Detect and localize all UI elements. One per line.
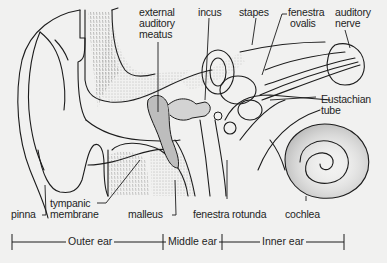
label-line: tube xyxy=(321,105,371,116)
label-malleus: malleus xyxy=(128,209,163,220)
label-cochlea: cochlea xyxy=(285,209,320,220)
label-fenestra-ovalis: fenestra ovalis xyxy=(288,7,324,29)
label-fenestra-rotunda: fenestra rotunda xyxy=(193,209,266,220)
label-auditory-nerve: auditory nerve xyxy=(335,7,371,29)
label-pinna: pinna xyxy=(11,209,36,220)
label-external-auditory-meatus: external auditory meatus xyxy=(139,7,175,40)
auditory-nerve-bulb xyxy=(327,44,364,85)
label-eustachian-tube: Eustachian tube xyxy=(321,94,371,116)
label-line: meatus xyxy=(139,29,175,40)
label-tympanic-membrane: tympanic membrane xyxy=(50,198,99,220)
label-line: membrane xyxy=(50,209,99,220)
region-middle-ear: Middle ear xyxy=(166,236,219,247)
label-line: ovalis xyxy=(288,18,324,29)
ear-diagram-artwork xyxy=(0,0,387,263)
label-incus: incus xyxy=(198,7,222,18)
region-inner-ear: Inner ear xyxy=(260,236,306,247)
label-line: nerve xyxy=(335,18,371,29)
region-outer-ear: Outer ear xyxy=(66,236,114,247)
label-stapes: stapes xyxy=(239,7,269,18)
cochlea-outline xyxy=(285,124,369,198)
